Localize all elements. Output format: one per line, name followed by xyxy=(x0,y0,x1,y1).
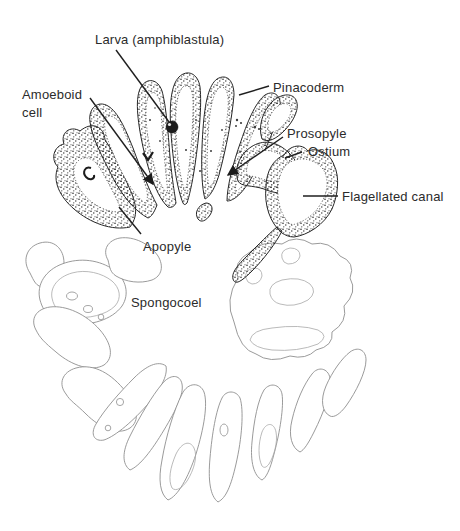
sponge-diagram-svg: Larva (amphiblastula) Amoeboid cell Pina… xyxy=(0,0,460,531)
label-flagellated-canal: Flagellated canal xyxy=(342,189,444,204)
label-amoeboid-cell-line1: Amoeboid xyxy=(22,87,82,102)
label-ostium: Ostium xyxy=(308,144,350,159)
canal-opening xyxy=(84,306,93,313)
label-prosopyle: Prosopyle xyxy=(287,126,347,141)
label-amoeboid-cell-line2: cell xyxy=(22,105,42,120)
body-lobe-outline xyxy=(323,349,366,416)
canal-opening xyxy=(105,425,111,431)
larva-dot xyxy=(166,121,178,133)
canal-opening xyxy=(220,424,228,436)
body-outline-lobes xyxy=(26,238,366,502)
larva-dot-highlight xyxy=(168,123,171,126)
canal-opening xyxy=(116,398,123,405)
stippled-wall-strip xyxy=(196,203,212,221)
label-larva: Larva (amphiblastula) xyxy=(95,32,224,47)
label-spongocoel: Spongocoel xyxy=(131,295,202,310)
canal-opening xyxy=(98,314,104,320)
label-apopyle: Apopyle xyxy=(143,239,191,254)
body-lobe-outline xyxy=(209,392,242,502)
label-pinacoderm: Pinacoderm xyxy=(273,80,344,95)
canal-opening xyxy=(67,292,78,300)
pinacoderm-leader-line xyxy=(239,86,269,95)
sponge-structure-diagram: Larva (amphiblastula) Amoeboid cell Pina… xyxy=(0,0,460,531)
